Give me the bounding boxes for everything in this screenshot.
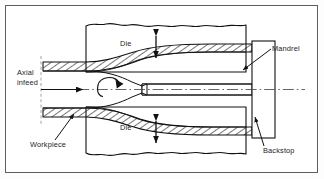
label-die-top: Die	[120, 39, 132, 48]
label-axial-line1: Axial	[17, 68, 38, 78]
label-workpiece: Workpiece	[30, 140, 66, 149]
label-backstop: Backstop	[263, 146, 295, 155]
label-mandrel: Mandrel	[272, 44, 300, 53]
workpiece-leader-line	[55, 114, 74, 140]
diagram-figure: Die Die Mandrel Backstop Workpiece Axial…	[0, 0, 324, 179]
label-axial-infeed: Axial infeed	[17, 68, 38, 87]
label-die-bottom: Die	[120, 123, 132, 132]
rotation-arrow	[98, 78, 124, 97]
label-axial-line2: infeed	[17, 78, 38, 88]
